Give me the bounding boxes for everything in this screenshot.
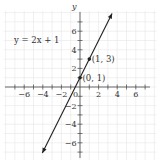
x-tick-label: 6 [133, 90, 138, 99]
axes [5, 12, 150, 158]
x-tick-label: 4 [115, 90, 120, 99]
y-axis-label: y [71, 2, 77, 11]
equation-label: y = 2x + 1 [13, 35, 59, 45]
y-tick-label: 2 [71, 64, 76, 73]
x-tick-label: −6 [18, 90, 30, 99]
y-tick-label: −4 [65, 120, 77, 129]
x-tick-label: 2 [96, 90, 101, 99]
point-label: (0, 1) [83, 73, 106, 83]
x-tick-label: −4 [37, 90, 49, 99]
y-tick-label: 4 [71, 46, 76, 55]
x-tick-label: −2 [56, 90, 68, 99]
data-point [78, 76, 82, 80]
coordinate-graph: −6−4−2246−6−4−22460 (0, 1)(1, 3) y = 2x … [0, 0, 160, 160]
data-point [88, 57, 92, 61]
y-tick-label: 6 [71, 27, 76, 36]
tick-labels: −6−4−2246−6−4−22460 [18, 27, 138, 148]
point-label: (1, 3) [92, 54, 115, 64]
y-tick-label: −2 [65, 102, 77, 111]
y-tick-label: −6 [65, 139, 77, 148]
